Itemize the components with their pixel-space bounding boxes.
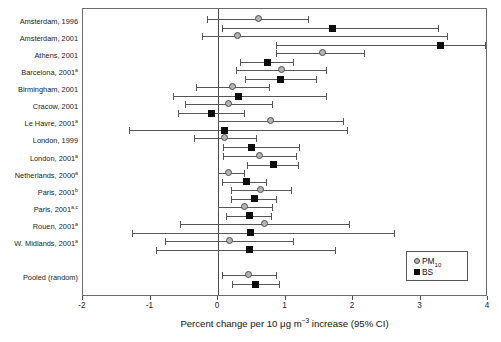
ci-cap-high [347,127,348,134]
category-label: Rouen, 2001a [0,223,78,230]
x-axis-tick [352,296,353,300]
pm10-point-marker [267,117,274,124]
x-axis-tick-label: 0 [215,301,220,310]
ci-cap-low [194,135,195,142]
pm10-point-marker [319,49,326,56]
ci-cap-high [326,67,327,74]
confidence-interval-line [276,45,486,46]
ci-cap-low [226,213,227,220]
confidence-interval-line [173,96,327,97]
ci-cap-high [349,221,350,228]
pm10-point-marker [257,186,264,193]
bs-point-marker [252,281,259,288]
category-label: Barcelona, 2001a [0,69,78,76]
category-label: Athens, 2001 [0,52,78,59]
bs-point-marker [246,212,253,219]
confidence-interval-line [132,233,395,234]
pm10-point-marker [226,237,233,244]
bs-point-marker [270,161,277,168]
ci-cap-low [222,179,223,186]
pm10-point-marker [225,169,232,176]
ci-cap-high [316,76,317,83]
category-label: Amsterdam, 1996 [0,18,78,25]
ci-cap-low [276,42,277,49]
ci-cap-high [299,144,300,151]
circle-marker-icon [411,258,422,264]
ci-cap-high [269,84,270,91]
bs-point-marker [247,229,254,236]
x-axis-tick-label: -2 [78,301,85,310]
ci-cap-low [218,118,219,125]
ci-cap-high [276,196,277,203]
pm10-point-marker [245,271,252,278]
ci-cap-high [298,162,299,169]
category-label: W. Midlands, 2001a [0,240,78,247]
ci-cap-low [247,162,248,169]
ci-cap-high [271,213,272,220]
ci-cap-high [244,110,245,117]
ci-cap-high [447,33,448,40]
x-axis-tick-label: 1 [282,301,287,310]
ci-cap-low [218,170,219,177]
ci-cap-low [173,93,174,100]
ci-cap-high [256,135,257,142]
ci-cap-low [222,272,223,279]
ci-cap-high [272,204,273,211]
confidence-interval-line [223,147,300,148]
pm10-point-marker [255,15,262,22]
legend-label-pm10: PM10 [422,256,441,266]
ci-cap-low [231,196,232,203]
bs-point-marker [246,246,253,253]
ci-cap-high [272,101,273,108]
ci-cap-high [394,230,395,237]
legend: PM10 BS [406,251,468,281]
ci-cap-low [223,144,224,151]
ci-cap-high [296,153,297,160]
ci-cap-high [308,16,309,23]
category-label: Netherlands, 2000a [0,172,78,179]
x-axis-tick-label: 3 [417,301,422,310]
ci-cap-low [156,247,157,254]
x-axis-tick [487,296,488,300]
ci-cap-low [218,204,219,211]
x-axis-title: Percent change per 10 μg m−3 increase (9… [82,318,487,329]
x-axis-tick [82,296,83,300]
pm10-point-marker [278,66,285,73]
ci-cap-low [132,230,133,237]
ci-cap-high [291,187,292,194]
x-axis-tick [285,296,286,300]
legend-item-pm10: PM10 [411,255,462,266]
ci-cap-low [245,76,246,83]
ci-cap-high [276,272,277,279]
legend-label-bs: BS [422,267,433,277]
ci-cap-high [293,59,294,66]
ci-cap-low [185,101,186,108]
category-label: Paris, 2001b [0,189,78,196]
ci-cap-low [231,187,232,194]
ci-cap-low [202,33,203,40]
confidence-interval-line [218,121,344,122]
ci-cap-low [223,153,224,160]
bs-point-marker [251,195,258,202]
ci-cap-high [364,50,365,57]
bs-point-marker [329,25,336,32]
x-axis-tick [420,296,421,300]
category-label: Amsterdam, 2001 [0,35,78,42]
pm10-point-marker [225,100,232,107]
ci-cap-high [438,25,439,32]
ci-cap-low [276,50,277,57]
x-axis-tick-label: -1 [146,301,153,310]
forest-plot-figure: Amsterdam, 1996Amsterdam, 2001Athens, 20… [0,0,501,342]
ci-cap-high [485,42,486,49]
pm10-point-marker [261,220,268,227]
ci-cap-high [326,93,327,100]
ci-cap-high [343,118,344,125]
x-axis-tick [150,296,151,300]
category-label: Pooled (random) [0,274,78,281]
pm10-point-marker [221,134,228,141]
ci-cap-low [165,238,166,245]
category-label: London, 2001a [0,155,78,162]
ci-cap-low [240,59,241,66]
category-label: Birmingham, 2001 [0,87,78,94]
zero-reference-line [218,9,219,295]
